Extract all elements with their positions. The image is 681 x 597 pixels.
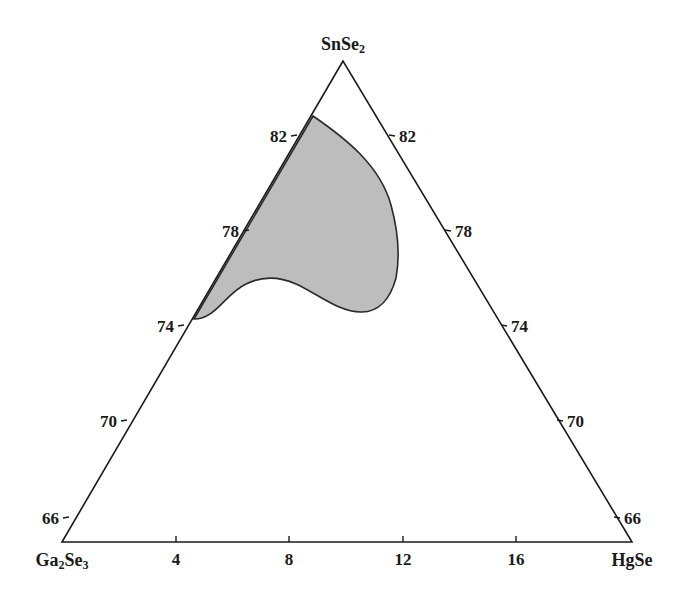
left-tick-66: 66	[42, 509, 59, 528]
left-axis-ticks	[63, 135, 297, 518]
vertex-label-left: Ga2Se3	[35, 550, 88, 572]
left-tick-78: 78	[222, 222, 239, 241]
vertex-label-right: HgSe	[611, 550, 652, 570]
bottom-axis-ticks	[176, 536, 516, 542]
bottom-tick-8: 8	[285, 550, 294, 569]
bottom-tick-12: 12	[395, 550, 412, 569]
right-tick-74: 74	[511, 317, 529, 336]
right-tick-78: 78	[455, 222, 472, 241]
shaded-phase-region	[194, 116, 398, 319]
right-tick-66: 66	[624, 509, 641, 528]
ternary-diagram: 4 8 12 16 82 78 74 70 66 82 78 74 70 66 …	[0, 0, 681, 597]
right-tick-70: 70	[567, 412, 584, 431]
right-tick-82: 82	[399, 127, 416, 146]
right-axis-ticks	[389, 135, 620, 518]
bottom-tick-16: 16	[508, 550, 525, 569]
left-tick-82: 82	[270, 127, 287, 146]
bottom-tick-4: 4	[172, 550, 181, 569]
left-tick-74: 74	[157, 317, 175, 336]
vertex-label-top: SnSe2	[321, 34, 365, 56]
left-tick-70: 70	[100, 412, 117, 431]
